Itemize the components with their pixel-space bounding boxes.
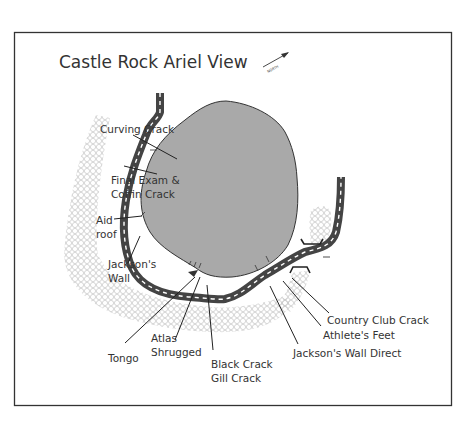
label-curving-crack: Curving Crack — [100, 123, 175, 135]
label-jacksons: Jackson's — [107, 258, 156, 270]
label-aid: Aid — [96, 214, 113, 226]
label-jacksons-wall-direct: Jackson's Wall Direct — [292, 347, 401, 359]
label-black-crack: Black Crack — [211, 358, 274, 370]
label-country-club-crack: Country Club Crack — [327, 314, 430, 326]
castle-rock-map: Castle Rock Ariel View NORTH — [0, 0, 474, 423]
label-atlas: Atlas — [151, 332, 177, 344]
label-final-exam: Final Exam & — [111, 174, 180, 186]
label-shrugged: Shrugged — [151, 346, 202, 358]
label-gill-crack: Gill Crack — [211, 372, 262, 384]
label-wall: Wall — [108, 272, 130, 284]
label-athletes-feet: Athlete's Feet — [323, 329, 395, 341]
map-title: Castle Rock Ariel View — [59, 52, 248, 72]
label-coffin-crack: Coffin Crack — [111, 188, 176, 200]
label-tongo: Tongo — [107, 352, 139, 364]
label-roof: roof — [96, 228, 117, 240]
